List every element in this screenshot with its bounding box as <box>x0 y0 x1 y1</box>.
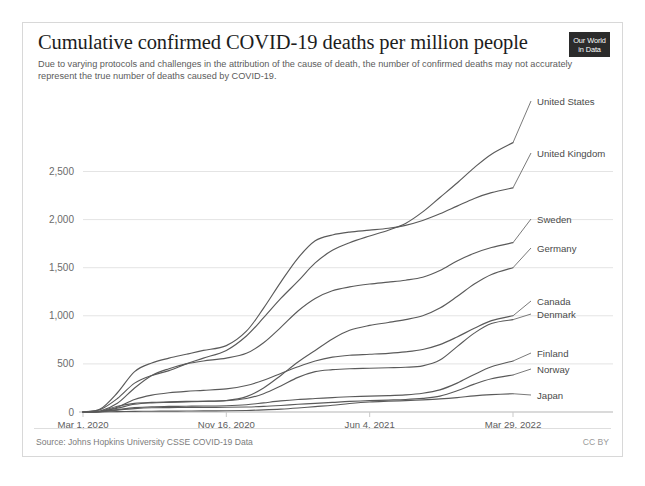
chart-plot-area: 05001,0001,5002,0002,500 Mar 1, 2020Nov … <box>23 23 624 458</box>
chart-svg: 05001,0001,5002,0002,500 Mar 1, 2020Nov … <box>23 23 624 458</box>
series-label-united-states: United States <box>537 96 595 107</box>
series-leader-germany <box>513 248 531 268</box>
series-label-canada: Canada <box>537 296 571 307</box>
y-tick-label: 1,000 <box>49 310 74 321</box>
y-tick-label: 2,500 <box>49 166 74 177</box>
gridlines <box>83 171 613 363</box>
chart-card: Cumulative confirmed COVID-19 deaths per… <box>22 22 623 457</box>
license-note: CC BY <box>583 437 609 447</box>
series-label-united-kingdom: United Kingdom <box>537 148 605 159</box>
series-label-denmark: Denmark <box>537 309 576 320</box>
y-tick-label: 500 <box>57 358 74 369</box>
series-line-germany <box>83 268 513 412</box>
series-leader-canada <box>513 301 531 316</box>
series-leader-norway <box>513 369 531 375</box>
y-axis-tick-labels: 05001,0001,5002,0002,500 <box>49 166 74 418</box>
y-tick-label: 0 <box>68 407 74 418</box>
series-leader-finland <box>513 353 531 361</box>
source-note: Source: Johns Hopkins University CSSE CO… <box>36 437 253 447</box>
series-label-finland: Finland <box>537 348 568 359</box>
y-tick-label: 2,000 <box>49 214 74 225</box>
series-leader-denmark <box>513 314 531 320</box>
x-axis <box>79 412 613 417</box>
series-leader-united-states <box>513 101 531 143</box>
footer-divider <box>34 428 611 429</box>
series-leader-united-kingdom <box>513 153 531 188</box>
series-leader-japan <box>513 394 531 395</box>
series-label-germany: Germany <box>537 243 577 254</box>
y-tick-label: 1,500 <box>49 262 74 273</box>
series-labels: United StatesUnited KingdomSwedenGermany… <box>513 96 605 401</box>
series-label-sweden: Sweden <box>537 214 572 225</box>
series-label-norway: Norway <box>537 364 570 375</box>
series-label-japan: Japan <box>537 390 563 401</box>
series-line-united-states <box>83 143 513 412</box>
series-leader-sweden <box>513 219 531 243</box>
series-lines <box>83 143 513 412</box>
